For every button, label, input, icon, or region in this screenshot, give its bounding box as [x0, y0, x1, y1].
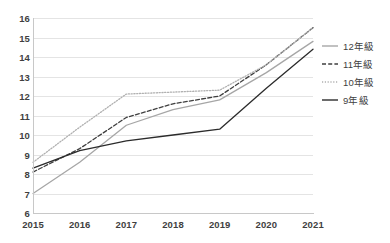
plot-area	[33, 18, 313, 213]
series-line	[33, 28, 313, 163]
legend-label: 9年級	[343, 93, 369, 107]
legend-label: 11年級	[343, 57, 374, 71]
x-axis-tick-label: 2016	[69, 219, 91, 230]
line-chart: 678910111213141516 201520162017201820192…	[0, 0, 390, 243]
legend-swatch-icon	[322, 95, 338, 105]
y-axis-tick-label: 12	[0, 91, 30, 102]
legend-item[interactable]: 9年級	[322, 92, 388, 108]
legend-item[interactable]: 10年級	[322, 74, 388, 90]
series-line	[33, 28, 313, 172]
x-axis-tick-label: 2021	[302, 219, 324, 230]
x-axis-tick-label: 2019	[209, 219, 231, 230]
y-axis-tick-label: 9	[0, 149, 30, 160]
x-axis-tick-label: 2015	[22, 219, 44, 230]
series-line	[33, 41, 313, 193]
y-axis-tick-label: 13	[0, 71, 30, 82]
y-axis-tick-label: 7	[0, 188, 30, 199]
y-axis-tick-labels: 678910111213141516	[0, 18, 30, 213]
y-axis-tick-label: 16	[0, 13, 30, 24]
legend-swatch-icon	[322, 59, 338, 69]
legend-swatch-icon	[322, 41, 338, 51]
series-lines	[33, 18, 313, 213]
x-axis-tick-label: 2017	[116, 219, 138, 230]
y-axis-tick-label: 8	[0, 169, 30, 180]
chart-legend: 12年級11年級10年級9年級	[322, 38, 388, 110]
legend-item[interactable]: 11年級	[322, 56, 388, 72]
x-axis-tick-label: 2018	[162, 219, 184, 230]
y-axis-tick-label: 10	[0, 130, 30, 141]
legend-label: 10年級	[343, 75, 374, 89]
y-axis-tick-label: 15	[0, 32, 30, 43]
legend-item[interactable]: 12年級	[322, 38, 388, 54]
y-axis-line	[33, 18, 34, 214]
y-axis-tick-label: 14	[0, 52, 30, 63]
y-axis-tick-label: 6	[0, 208, 30, 219]
y-axis-tick-label: 11	[0, 110, 30, 121]
x-axis-line	[33, 213, 314, 214]
legend-swatch-icon	[322, 77, 338, 87]
legend-label: 12年級	[343, 39, 374, 53]
x-axis-tick-label: 2020	[256, 219, 278, 230]
